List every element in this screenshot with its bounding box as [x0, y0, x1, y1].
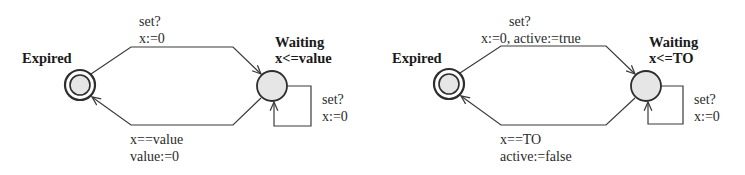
diagram-2 — [434, 46, 683, 125]
edge-update-label: value:=0 — [130, 148, 179, 165]
self-loop-update-label: x:=0 — [694, 108, 720, 125]
state-expired[interactable] — [434, 69, 464, 99]
state-expired-label: Expired — [22, 50, 72, 67]
automata-canvas — [0, 0, 745, 175]
state-waiting-label: Waiting — [275, 34, 324, 51]
self-loop-update-label: x:=0 — [322, 108, 348, 125]
state-waiting[interactable] — [257, 71, 287, 101]
self-loop-sync-label: set? — [322, 91, 344, 108]
edge-waiting-to-expired[interactable] — [92, 97, 261, 125]
state-waiting-label: Waiting — [649, 34, 698, 51]
self-loop-sync-label: set? — [694, 91, 716, 108]
edge-expired-to-waiting[interactable] — [460, 46, 635, 74]
edge-update-label: x:=0, active:=true — [481, 30, 581, 47]
state-waiting-invariant: x<=TO — [649, 50, 693, 67]
state-waiting-invariant: x<=value — [275, 50, 332, 67]
edge-expired-to-waiting[interactable] — [91, 47, 261, 74]
edge-sync-label: set? — [509, 13, 531, 30]
state-expired-label: Expired — [392, 50, 442, 67]
edge-update-label: active:=false — [500, 148, 572, 165]
edge-waiting-to-expired[interactable] — [461, 96, 635, 125]
edge-sync-label: set? — [139, 13, 161, 30]
state-waiting[interactable] — [631, 71, 661, 101]
state-expired[interactable] — [65, 70, 95, 100]
edge-guard-label: x==TO — [500, 131, 541, 148]
edge-update-label: x:=0 — [139, 30, 165, 47]
edge-guard-label: x==value — [130, 131, 183, 148]
